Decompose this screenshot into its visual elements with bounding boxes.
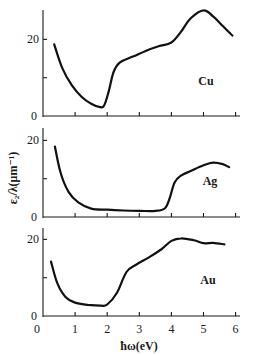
panel-label: Au <box>200 273 216 287</box>
data-curve-au <box>51 238 224 306</box>
panel-label: Cu <box>198 74 214 88</box>
panel-ag: 200Ag <box>27 128 240 224</box>
x-tick-label: 4 <box>168 322 174 336</box>
y-tick-label: 0 <box>31 309 37 323</box>
x-tick-label: 5 <box>201 322 207 336</box>
data-curve-cu <box>54 10 232 107</box>
x-tick-label: 0 <box>34 322 40 336</box>
x-axis-label: ħω(eV) <box>120 339 157 353</box>
x-tick-label: 1 <box>72 322 78 336</box>
panel-au: 200Au <box>27 228 240 323</box>
y-tick-label: 20 <box>27 32 39 46</box>
x-tick-labels: 0123456 <box>34 322 239 336</box>
optical-absorption-chart: 200Cu200Ag200Au 0123456 ε₂/λ(μm⁻¹) ħω(eV… <box>0 0 254 355</box>
panel-cu: 200Cu <box>27 10 240 123</box>
y-tick-label: 0 <box>31 210 37 224</box>
y-tick-label: 20 <box>27 133 39 147</box>
x-tick-label: 6 <box>233 322 239 336</box>
y-tick-label: 20 <box>27 232 39 246</box>
panel-label: Ag <box>203 174 218 188</box>
y-axis-label: ε₂/λ(μm⁻¹) <box>6 152 20 205</box>
x-tick-label: 2 <box>104 322 110 336</box>
y-tick-label: 0 <box>31 109 37 123</box>
x-tick-label: 3 <box>136 322 142 336</box>
